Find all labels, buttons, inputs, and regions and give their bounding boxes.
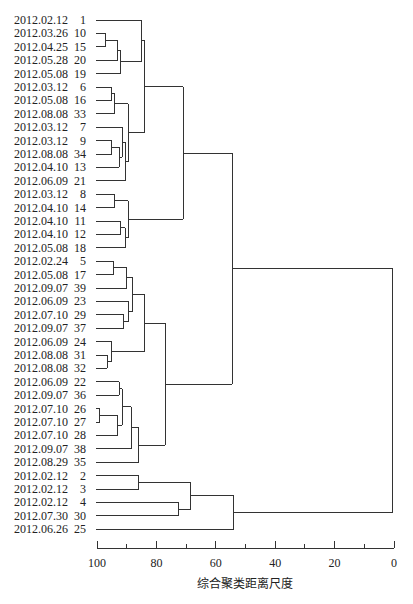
tick-label: 80 [150,556,162,570]
leaf-id-label: 15 [74,40,86,54]
leaf-id-label: 6 [80,80,86,94]
leaf-date-label: 2012.03.12 [14,187,68,201]
tick-label: 40 [269,556,281,570]
leaf-date-label: 2012.06.09 [14,335,68,349]
leaf-date-label: 2012.02.12 [14,482,68,496]
leaf-date-label: 2012.02.12 [14,495,68,509]
leaf-date-label: 2012.07.10 [14,428,68,442]
leaf-date-label: 2012.06.09 [14,294,68,308]
leaf-date-label: 2012.09.07 [14,388,68,402]
leaf-id-label: 5 [80,254,86,268]
leaf-date-label: 2012.07.10 [14,402,68,416]
leaf-id-label: 9 [80,134,86,148]
leaf-date-label: 2012.07.10 [14,415,68,429]
leaf-date-label: 2012.08.08 [14,147,68,161]
leaf-id-label: 32 [74,361,86,375]
leaf-date-label: 2012.05.08 [14,93,68,107]
leaf-id-label: 27 [74,415,86,429]
leaf-id-label: 16 [74,93,86,107]
leaf-date-label: 2012.08.08 [14,348,68,362]
leaf-date-label: 2012.03.12 [14,80,68,94]
leaf-id-label: 2 [80,469,86,483]
leaf-id-label: 18 [74,241,86,255]
leaf-date-label: 2012.03.12 [14,134,68,148]
leaf-id-label: 22 [74,375,86,389]
leaf-id-label: 21 [74,174,86,188]
leaf-id-label: 10 [74,26,86,40]
leaf-id-label: 19 [74,67,86,81]
leaf-date-label: 2012.05.08 [14,241,68,255]
leaf-date-label: 2012.06.09 [14,375,68,389]
x-axis-ticks: 100806040200 [88,541,397,570]
x-axis-label: 综合聚类距离尺度 [197,576,293,591]
leaf-id-label: 11 [74,214,86,228]
leaf-date-label: 2012.08.29 [14,455,68,469]
tick-label: 20 [329,556,341,570]
leaf-id-label: 17 [74,268,86,282]
leaf-labels: 2012.02.1212012.03.26102012.04.25152012.… [14,13,86,536]
tick-label: 0 [391,556,397,570]
leaf-id-label: 31 [74,348,86,362]
tick-label: 60 [210,556,222,570]
leaf-date-label: 2012.05.08 [14,67,68,81]
leaf-id-label: 1 [80,13,86,27]
leaf-id-label: 8 [80,187,86,201]
leaf-id-label: 7 [80,120,86,134]
leaf-date-label: 2012.04.10 [14,214,68,228]
leaf-id-label: 4 [80,495,86,509]
leaf-id-label: 38 [74,442,86,456]
leaf-date-label: 2012.02.12 [14,13,68,27]
leaf-id-label: 39 [74,281,86,295]
leaf-id-label: 23 [74,294,86,308]
leaf-id-label: 37 [74,321,86,335]
leaf-id-label: 24 [74,335,86,349]
leaf-date-label: 2012.06.26 [14,522,68,536]
leaf-date-label: 2012.08.08 [14,107,68,121]
leaf-date-label: 2012.05.08 [14,268,68,282]
leaf-date-label: 2012.09.07 [14,321,68,335]
leaf-date-label: 2012.09.07 [14,442,68,456]
leaf-id-label: 25 [74,522,86,536]
leaf-date-label: 2012.08.08 [14,361,68,375]
x-axis: 100806040200 综合聚类距离尺度 [88,541,397,591]
leaf-id-label: 34 [74,147,86,161]
leaf-id-label: 13 [74,160,86,174]
leaf-id-label: 33 [74,107,86,121]
leaf-id-label: 14 [74,201,86,215]
leaf-id-label: 36 [74,388,86,402]
leaf-date-label: 2012.09.07 [14,281,68,295]
leaf-id-label: 20 [74,53,86,67]
dendrogram-tree [96,20,393,529]
leaf-date-label: 2012.07.30 [14,509,68,523]
leaf-id-label: 3 [80,482,86,496]
leaf-date-label: 2012.04.10 [14,160,68,174]
leaf-date-label: 2012.04.10 [14,201,68,215]
leaf-date-label: 2012.03.26 [14,26,68,40]
leaf-id-label: 29 [74,308,86,322]
leaf-date-label: 2012.06.09 [14,174,68,188]
leaf-date-label: 2012.02.12 [14,469,68,483]
tick-label: 100 [88,556,106,570]
leaf-id-label: 12 [74,227,86,241]
leaf-id-label: 28 [74,428,86,442]
leaf-date-label: 2012.03.12 [14,120,68,134]
leaf-id-label: 35 [74,455,86,469]
leaf-date-label: 2012.02.24 [14,254,68,268]
leaf-date-label: 2012.04.10 [14,227,68,241]
leaf-date-label: 2012.04.25 [14,40,68,54]
dendrogram-chart: 2012.02.1212012.03.26102012.04.25152012.… [0,0,413,604]
leaf-date-label: 2012.05.28 [14,53,68,67]
leaf-id-label: 26 [74,402,86,416]
leaf-date-label: 2012.07.10 [14,308,68,322]
leaf-id-label: 30 [74,509,86,523]
